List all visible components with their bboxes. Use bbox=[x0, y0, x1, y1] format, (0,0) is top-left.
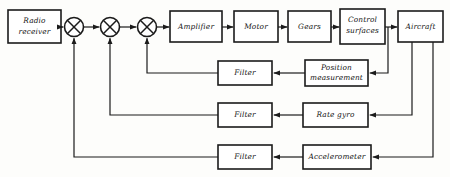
block-label-position-measurement-line2: measurement bbox=[310, 73, 363, 82]
block-aircraft: Aircraft bbox=[398, 11, 443, 42]
block-control-surfaces: Control surfaces bbox=[340, 9, 385, 44]
wire-filter-position-to-sum3 bbox=[147, 38, 218, 73]
block-filter-rate: Filter bbox=[218, 103, 272, 127]
block-label-accelerometer: Accelerometer bbox=[308, 152, 366, 161]
block-label-rate-gyro: Rate gyro bbox=[315, 110, 354, 119]
block-amplifier: Amplifier bbox=[170, 11, 222, 42]
summing-junction-2 bbox=[101, 18, 120, 37]
block-label-gears: Gears bbox=[298, 22, 321, 31]
block-gears: Gears bbox=[288, 11, 331, 42]
block-label-aircraft: Aircraft bbox=[404, 22, 435, 31]
summing-junction-3 bbox=[138, 18, 157, 37]
block-label-filter-rate: Filter bbox=[233, 110, 256, 119]
block-label-radio-receiver-line1: Radio bbox=[22, 16, 46, 25]
block-label-filter-accel: Filter bbox=[233, 152, 256, 161]
block-label-control-surfaces-line2: surfaces bbox=[346, 26, 379, 35]
wire-aircraft-to-rate-gyro bbox=[370, 42, 412, 115]
block-label-motor: Motor bbox=[243, 22, 268, 31]
block-radio-receiver: Radio receiver bbox=[8, 10, 61, 43]
summing-junction-1 bbox=[65, 18, 84, 37]
block-position-measurement: Position measurement bbox=[305, 60, 368, 86]
block-diagram-canvas: Radio receiver Amplifier Motor Gears Con… bbox=[0, 0, 450, 177]
block-label-position-measurement-line1: Position bbox=[320, 63, 352, 72]
block-label-filter-position: Filter bbox=[233, 68, 256, 77]
wire-aircraft-to-accelerometer bbox=[373, 42, 433, 157]
control-system-block-diagram: Radio receiver Amplifier Motor Gears Con… bbox=[0, 0, 450, 177]
block-label-radio-receiver-line2: receiver bbox=[18, 27, 50, 36]
block-motor: Motor bbox=[234, 11, 278, 42]
block-rate-gyro: Rate gyro bbox=[303, 103, 368, 127]
block-filter-accel: Filter bbox=[218, 145, 272, 169]
block-filter-position: Filter bbox=[218, 61, 272, 85]
wire-filter-rate-to-sum2 bbox=[110, 38, 218, 115]
block-label-amplifier: Amplifier bbox=[177, 22, 214, 31]
block-accelerometer: Accelerometer bbox=[303, 145, 371, 169]
block-label-control-surfaces-line1: Control bbox=[348, 15, 378, 24]
wire-filter-accel-to-sum1 bbox=[74, 38, 218, 157]
